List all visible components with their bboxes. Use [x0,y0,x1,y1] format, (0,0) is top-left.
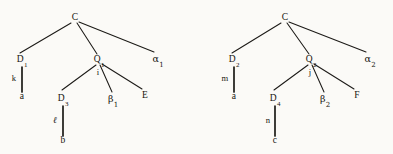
node-subscript: 2 [313,61,317,69]
node-label: β [108,93,114,104]
node-subscript: 2 [236,61,240,69]
tree-edge-q1-to-d3 [62,65,96,90]
tree-node-q1: Q1 [94,55,105,65]
edge-label-l: ℓ [53,116,57,125]
tree-edge-q2-to-f-right [314,64,354,89]
node-label: a [20,91,24,101]
node-label: a [232,91,236,101]
node-subscript: 1 [114,101,119,109]
tree-edge-root-c-to-alpha1 [79,22,154,52]
tree-node-a-left: a [20,92,24,102]
tree-node-a-right: a [232,92,236,102]
tree-node-root-c: C [282,13,288,23]
node-label: C [72,12,78,22]
tree-node-e-left: E [142,91,148,101]
node-label: b [61,135,66,145]
tree-edge-root-c-to-q1 [77,23,97,54]
tree-edge-root-c-to-q2 [287,23,309,54]
node-label: F [354,90,359,100]
tree-node-d1: D1 [17,55,28,65]
node-label: Q [306,54,313,64]
tree-edge-q2-to-d4 [274,65,308,90]
edge-label-m: m [222,74,229,83]
tree-node-d3: D3 [58,94,69,104]
tree-node-b-left: b [61,136,66,146]
right-tree-edges [232,22,366,136]
tree-node-f-right: F [354,91,359,101]
tree-node-q2: Q2 [306,55,317,65]
tree-node-alpha1: α1 [152,54,163,64]
tree-edge-root-c-to-alpha2 [289,22,366,52]
tree-node-root-c: C [72,13,78,23]
node-subscript: 3 [65,100,69,108]
node-label: D [270,93,277,103]
node-label: β [320,93,326,104]
node-subscript: 1 [101,61,105,69]
left-tree-edges [20,22,154,136]
node-label: Q [94,54,101,64]
tree-node-c-right: c [273,136,277,146]
tree-node-alpha2: α2 [364,54,375,64]
tree-edge-root-c-to-d1 [20,23,71,53]
node-subscript: 4 [277,100,281,108]
node-label: c [273,135,277,145]
node-subscript: 1 [159,61,164,69]
node-label: D [58,93,65,103]
edge-label-k: k [12,74,16,83]
node-label: α [364,53,371,64]
node-label: E [142,90,148,100]
tree-edge-root-c-to-d2 [232,23,281,53]
tree-node-d4: D4 [270,94,281,104]
node-subscript: 2 [371,61,376,69]
tree-edges-layer [0,0,393,154]
node-label: C [282,12,288,22]
edge-label-n: n [266,116,270,125]
figure-canvas: CD1aQ1D3bβ1Eα1kiℓ CD2aQ2D4cβ2Fα2mjn [0,0,393,154]
node-label: D [17,54,24,64]
edge-label-i: i [97,68,100,77]
tree-node-beta1: β1 [108,94,118,104]
node-subscript: 1 [24,61,28,69]
edge-label-j: j [309,68,312,77]
node-label: α [152,53,159,64]
tree-node-beta2: β2 [320,94,330,104]
node-label: D [229,54,236,64]
node-subscript: 2 [326,101,331,109]
tree-edge-q1-to-e-left [102,64,142,89]
tree-node-d2: D2 [229,55,240,65]
